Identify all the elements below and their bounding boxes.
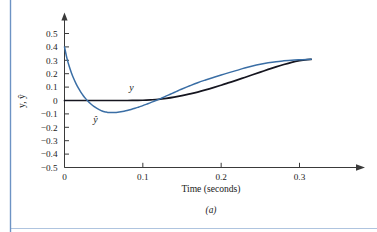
chart-canvas: 0.50.40.30.20.10−0.1−0.2−0.3−0.4−0.5 00.… [0,0,377,232]
y-tick-label: −0.2 [41,123,58,133]
series-inline-labels: yŷ [92,82,134,125]
x-tick-label: 0 [62,172,67,182]
y-tick-label: −0.5 [41,163,58,173]
x-axis-arrowhead [356,164,365,171]
y-tick-label: −0.1 [41,109,58,119]
axes-group [61,13,365,171]
x-tick-label: 0.3 [294,172,306,182]
x-axis-ticks: 00.10.20.3 [62,163,305,182]
figure-caption: (a) [206,205,217,216]
data-series-layer [65,47,312,113]
series-curve-y [65,59,312,100]
x-tick-label: 0.2 [215,172,227,182]
y-axis-arrowhead [61,13,67,21]
x-tick-label: 0.1 [137,172,149,182]
y-tick-label: 0.3 [46,56,58,66]
y-tick-label: 0.4 [46,42,58,52]
y-tick-label: 0.1 [46,82,58,92]
figure-container: 0.50.40.30.20.10−0.1−0.2−0.3−0.4−0.5 00.… [0,0,377,232]
y-tick-label: 0 [53,96,58,106]
series-label-y: y [128,82,134,93]
y-tick-label: −0.3 [41,136,58,146]
y-axis-title: y, ŷ [16,94,27,108]
y-tick-label: 0.5 [46,29,58,39]
series-curve-y_hat [65,47,312,113]
series-label-y_hat: ŷ [92,114,98,125]
y-tick-label: 0.2 [46,69,58,79]
y-tick-label: −0.4 [41,149,58,159]
x-axis-title: Time (seconds) [181,183,240,195]
